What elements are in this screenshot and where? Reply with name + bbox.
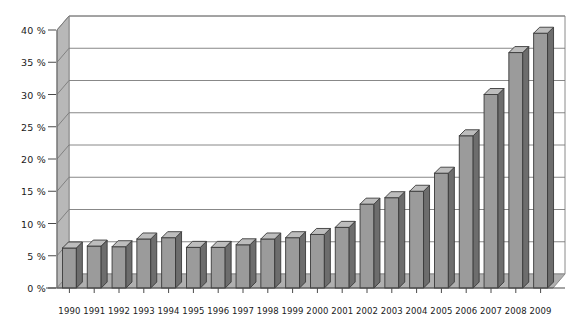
bar-front xyxy=(459,136,473,288)
x-tick-label: 2003 xyxy=(381,306,403,316)
bar-2008 xyxy=(509,47,529,288)
bar-1992 xyxy=(112,241,132,288)
x-tick-label: 2007 xyxy=(480,306,502,316)
bar-front xyxy=(211,247,225,288)
bar-front xyxy=(236,245,250,288)
x-tick-label: 1991 xyxy=(83,306,105,316)
bar-2009 xyxy=(534,27,554,288)
bar-side xyxy=(548,27,554,288)
bar-side xyxy=(275,233,281,288)
bar-side xyxy=(300,232,306,288)
bar-side xyxy=(374,198,380,288)
y-tick-label: 10 % xyxy=(4,218,46,229)
x-tick-label: 2000 xyxy=(306,306,328,316)
bar-chart: 0 %5 %10 %15 %20 %25 %30 %35 %40 % 19901… xyxy=(0,0,575,327)
bar-front xyxy=(112,247,126,288)
bar-front xyxy=(484,95,498,289)
bar-1994 xyxy=(162,232,182,288)
bar-1997 xyxy=(236,239,256,288)
bar-side xyxy=(498,89,504,289)
bar-front xyxy=(310,234,324,288)
bar-side xyxy=(126,241,132,288)
y-tick-label: 30 % xyxy=(4,89,46,100)
bar-2002 xyxy=(360,198,380,288)
bar-front xyxy=(62,248,76,288)
bar-front xyxy=(261,239,275,288)
y-tick-label: 40 % xyxy=(4,25,46,36)
x-tick-label: 1997 xyxy=(232,306,254,316)
x-tick-label: 2009 xyxy=(530,306,552,316)
bar-2003 xyxy=(385,192,405,288)
bar-front xyxy=(137,239,151,288)
bar-front xyxy=(186,247,200,288)
bar-2007 xyxy=(484,89,504,289)
bar-1996 xyxy=(211,241,231,288)
x-tick-label: 1993 xyxy=(133,306,155,316)
bar-side xyxy=(200,241,206,288)
x-tick-label: 1994 xyxy=(158,306,180,316)
bar-side xyxy=(349,221,355,288)
bar-side xyxy=(151,233,157,288)
bar-1993 xyxy=(137,233,157,288)
x-tick-label: 2004 xyxy=(406,306,428,316)
bar-side xyxy=(523,47,529,288)
bar-1991 xyxy=(87,240,107,288)
y-axis: 0 %5 %10 %15 %20 %25 %30 %35 %40 % xyxy=(0,0,46,327)
x-tick-label: 2001 xyxy=(331,306,353,316)
bar-side xyxy=(473,130,479,288)
bar-1990 xyxy=(62,242,82,288)
bar-1998 xyxy=(261,233,281,288)
y-tick-label: 35 % xyxy=(4,57,46,68)
bar-front xyxy=(286,238,300,288)
bar-2000 xyxy=(310,228,330,288)
bar-side xyxy=(424,185,430,288)
bar-side xyxy=(76,242,82,288)
x-tick-label: 2006 xyxy=(455,306,477,316)
bar-side xyxy=(250,239,256,288)
bar-front xyxy=(360,204,374,288)
bar-side xyxy=(225,241,231,288)
bar-1995 xyxy=(186,241,206,288)
y-tick-label: 20 % xyxy=(4,154,46,165)
bar-side xyxy=(399,192,405,288)
x-tick-label: 2002 xyxy=(356,306,378,316)
bar-side xyxy=(448,167,454,288)
x-tick-label: 1996 xyxy=(207,306,229,316)
y-tick-label: 25 % xyxy=(4,121,46,132)
x-tick-label: 2005 xyxy=(430,306,452,316)
bar-front xyxy=(162,238,176,288)
x-tick-label: 1995 xyxy=(182,306,204,316)
y-tick-label: 15 % xyxy=(4,186,46,197)
bar-front xyxy=(87,246,101,288)
bar-1999 xyxy=(286,232,306,288)
x-tick-label: 1990 xyxy=(58,306,80,316)
bar-front xyxy=(335,227,349,288)
bar-side xyxy=(324,228,330,288)
bar-2005 xyxy=(434,167,454,288)
y-tick-label: 0 % xyxy=(4,283,46,294)
bar-side xyxy=(101,240,107,288)
y-tick-label: 5 % xyxy=(4,250,46,261)
bar-front xyxy=(509,53,523,288)
chart-plot-area xyxy=(0,0,575,327)
bar-front xyxy=(410,191,424,288)
x-tick-label: 1992 xyxy=(108,306,130,316)
bar-2006 xyxy=(459,130,479,288)
bar-front xyxy=(434,173,448,288)
bar-front xyxy=(385,198,399,288)
x-tick-label: 2008 xyxy=(505,306,527,316)
bar-side xyxy=(176,232,182,288)
bar-front xyxy=(534,33,548,288)
x-tick-label: 1998 xyxy=(257,306,279,316)
bar-2004 xyxy=(410,185,430,288)
bar-2001 xyxy=(335,221,355,288)
x-tick-label: 1999 xyxy=(282,306,304,316)
